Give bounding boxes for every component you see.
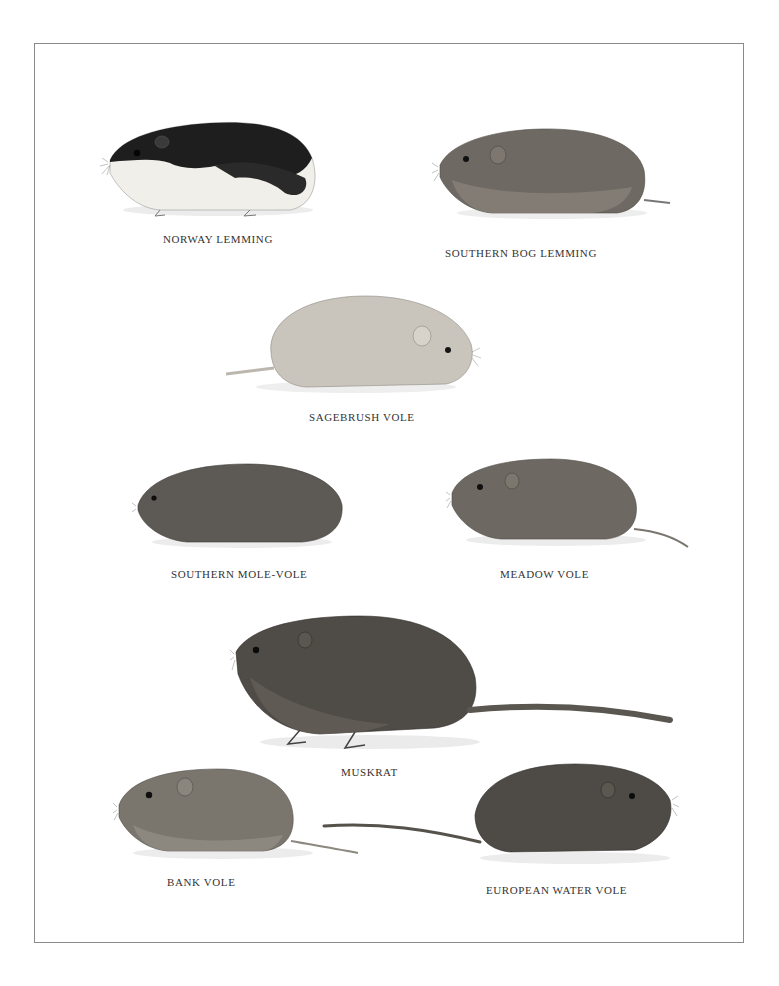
caption-sagebrush-vole: SAGEBRUSH VOLE (309, 411, 415, 423)
norway-lemming-illustration (100, 118, 325, 223)
caption-norway-lemming: NORWAY LEMMING (163, 233, 273, 245)
muskrat-illustration (230, 612, 675, 757)
meadow-vole-illustration (446, 455, 691, 550)
southern-mole-vole-illustration (132, 460, 347, 555)
caption-european-water-vole: EUROPEAN WATER VOLE (486, 884, 627, 896)
european-water-vole-illustration (320, 760, 680, 870)
sagebrush-vole-illustration (226, 292, 481, 402)
caption-bank-vole: BANK VOLE (167, 876, 235, 888)
southern-bog-lemming-illustration (432, 125, 672, 225)
caption-southern-mole-vole: SOUTHERN MOLE-VOLE (171, 568, 307, 580)
caption-meadow-vole: MEADOW VOLE (500, 568, 589, 580)
caption-southern-bog-lemming: SOUTHERN BOG LEMMING (445, 247, 597, 259)
